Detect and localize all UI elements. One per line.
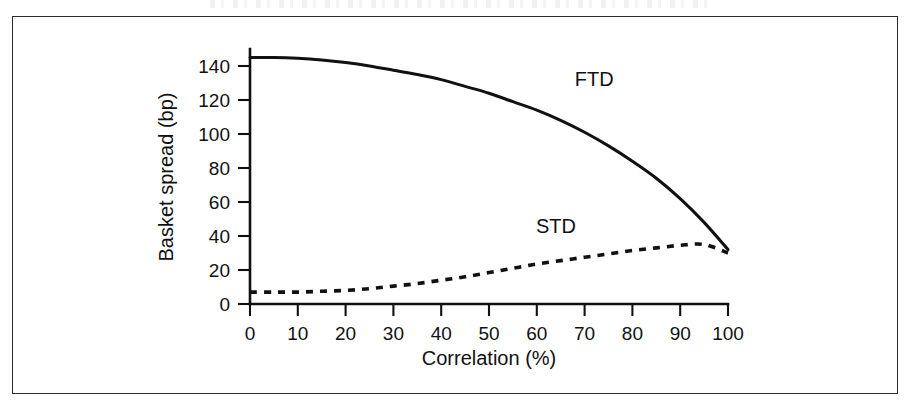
y-tick-label-20: 20	[209, 260, 230, 281]
x-tick-label-40: 40	[431, 323, 452, 344]
series-curve-ftd	[250, 57, 728, 249]
x-tick-label-80: 80	[622, 323, 643, 344]
figure-root: 020406080100120140 010203040506070809010…	[0, 0, 916, 411]
x-axis-title: Correlation (%)	[422, 347, 556, 369]
x-axis-ticks: 0102030405060708090100	[245, 304, 744, 344]
y-tick-label-0: 0	[219, 294, 230, 315]
y-tick-label-140: 140	[198, 56, 230, 77]
x-tick-label-30: 30	[383, 323, 404, 344]
series-curve-std	[250, 244, 728, 292]
x-tick-label-20: 20	[335, 323, 356, 344]
y-tick-label-80: 80	[209, 158, 230, 179]
y-tick-label-120: 120	[198, 90, 230, 111]
series-label-std: STD	[536, 215, 576, 237]
caption-scan-artifact	[210, 0, 710, 8]
y-tick-label-60: 60	[209, 192, 230, 213]
x-tick-label-60: 60	[526, 323, 547, 344]
series-annotations: FTDSTD	[536, 68, 614, 236]
x-tick-label-90: 90	[670, 323, 691, 344]
series-label-ftd: FTD	[575, 68, 614, 90]
y-axis-ticks: 020406080100120140	[198, 56, 250, 315]
x-tick-label-70: 70	[574, 323, 595, 344]
y-axis-title: Basket spread (bp)	[155, 93, 177, 262]
x-tick-label-10: 10	[287, 323, 308, 344]
x-tick-label-50: 50	[478, 323, 499, 344]
chart-plot: 020406080100120140 010203040506070809010…	[13, 17, 897, 393]
y-tick-label-100: 100	[198, 124, 230, 145]
y-tick-label-40: 40	[209, 226, 230, 247]
figure-frame: 020406080100120140 010203040506070809010…	[12, 16, 898, 394]
x-tick-label-0: 0	[245, 323, 256, 344]
x-tick-label-100: 100	[712, 323, 744, 344]
chart-series	[250, 57, 728, 292]
